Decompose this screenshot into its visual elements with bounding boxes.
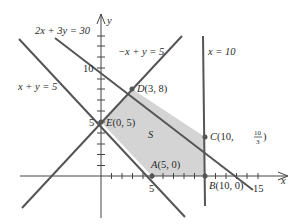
point-label-d: D(3, 8)	[136, 83, 168, 95]
equation-label-x-y: x + y = 5	[17, 81, 57, 92]
fraction-numerator: 10	[254, 129, 262, 137]
line-x-equals-10	[203, 36, 205, 206]
y-tick-5: 5	[89, 117, 94, 128]
equation-label-2x-3y: 2x + 3y = 30	[35, 25, 91, 36]
diagram-canvas: y x 5 15 10 5 2x + 3y = 30 −x + y = 5 x …	[0, 0, 301, 224]
point-label-a: A(5, 0)	[150, 159, 181, 171]
y-axis-label: y	[106, 15, 112, 26]
x-axis-label: x	[280, 175, 286, 186]
region-label-s: S	[148, 129, 154, 140]
point-label-b: B(10, 0)	[209, 180, 244, 192]
point-label-c: C(10, 10 3 )	[210, 129, 267, 146]
point-label-e: E(0, 5)	[105, 117, 136, 129]
equation-label-neg-x-y: −x + y = 5	[118, 46, 164, 57]
svg-text:C(10,: C(10,	[210, 131, 234, 143]
x-tick-15: 15	[253, 183, 264, 194]
fraction-denominator: 3	[256, 138, 260, 146]
x-tick-5: 5	[149, 183, 154, 194]
y-tick-10: 10	[83, 63, 94, 74]
svg-text:): )	[263, 131, 267, 143]
equation-label-x-10: x = 10	[207, 46, 236, 57]
